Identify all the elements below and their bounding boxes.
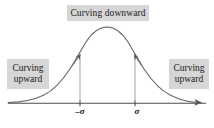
label-curving-upward-left: Curving upward: [7, 59, 49, 89]
label-curving-upward-left-line1: Curving: [12, 63, 43, 74]
inflection-arrow-positive-sigma: [135, 57, 141, 65]
label-curving-downward-text: Curving downward: [70, 8, 145, 19]
axis-tick-label-negative-sigma: –σ: [67, 106, 93, 116]
axis-tick-label-positive-sigma: σ: [124, 106, 150, 116]
label-curving-upward-right: Curving upward: [169, 59, 209, 89]
label-curving-downward: Curving downward: [67, 5, 149, 21]
label-curving-upward-right-line2: upward: [175, 74, 204, 85]
normal-curve-figure: Curving downward Curving upward Curving …: [0, 0, 214, 128]
label-curving-upward-right-line1: Curving: [173, 63, 204, 74]
label-curving-upward-left-line2: upward: [14, 74, 43, 85]
inflection-arrow-negative-sigma: [73, 56, 79, 64]
